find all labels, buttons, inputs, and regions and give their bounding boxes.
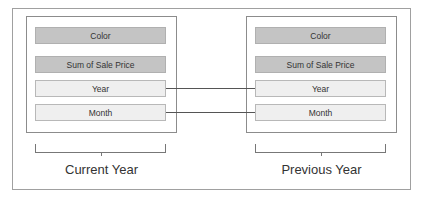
current-year-bracket	[35, 144, 166, 153]
field-color: Color	[255, 27, 386, 44]
current-year-label: Current Year	[26, 162, 177, 177]
current-year-panel: Color Sum of Sale Price Year Month	[26, 16, 177, 133]
month-connector-line	[166, 112, 255, 113]
bracket-tick	[101, 152, 102, 156]
bracket-tick	[321, 152, 322, 156]
previous-year-bracket	[255, 144, 386, 153]
previous-year-label: Previous Year	[246, 162, 397, 177]
field-sum-of-sale-price: Sum of Sale Price	[255, 56, 386, 73]
year-connector-line	[166, 88, 255, 89]
field-month: Month	[255, 104, 386, 121]
field-sum-of-sale-price: Sum of Sale Price	[35, 56, 166, 73]
field-year: Year	[35, 80, 166, 97]
previous-year-panel: Color Sum of Sale Price Year Month	[246, 16, 397, 133]
field-month: Month	[35, 104, 166, 121]
field-color: Color	[35, 27, 166, 44]
field-year: Year	[255, 80, 386, 97]
